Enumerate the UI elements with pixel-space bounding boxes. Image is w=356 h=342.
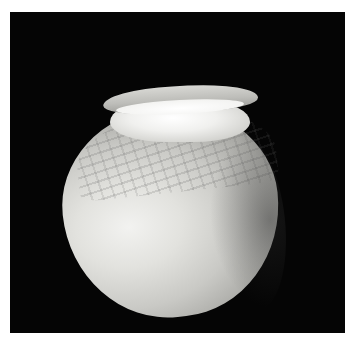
photograph [10,12,345,333]
